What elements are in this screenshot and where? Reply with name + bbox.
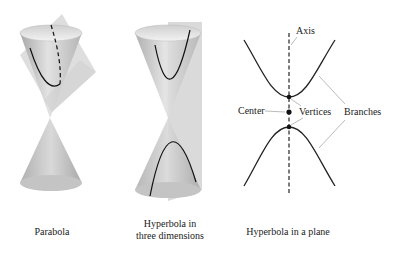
vertices-leader-upper <box>291 99 301 106</box>
caption-hyperbola-plane: Hyperbola in a plane <box>238 226 338 238</box>
center-label: Center <box>238 105 265 116</box>
caption-line: Hyperbola in a plane <box>246 226 330 237</box>
upper-vertex-point <box>287 95 292 100</box>
parabola-cone-diagram <box>20 14 96 191</box>
vertices-label: Vertices <box>299 106 331 117</box>
lower-cone-base <box>20 175 82 191</box>
branches-leader-upper <box>319 76 345 104</box>
upper-cone-rim <box>135 25 201 41</box>
lower-vertex-point <box>287 125 292 130</box>
branches-label: Branches <box>344 106 381 117</box>
hyperbola-plane-diagram: Axis Center Vertices Branches <box>238 25 381 193</box>
center-point <box>286 109 291 114</box>
vertices-leader-lower <box>291 118 303 125</box>
lower-cone <box>20 118 82 183</box>
caption-line: Hyperbola in <box>125 218 215 230</box>
caption-line: three dimensions <box>125 230 215 242</box>
center-leader <box>265 111 285 112</box>
caption-parabola: Parabola <box>15 226 89 238</box>
hyperbola-3d-diagram <box>135 22 202 201</box>
conic-sections-figure: Axis Center Vertices Branches <box>0 0 399 253</box>
caption-hyperbola-3d: Hyperbola in three dimensions <box>125 218 215 242</box>
caption-line: Parabola <box>35 226 70 237</box>
lower-cone-base <box>135 182 201 198</box>
axis-leader <box>291 37 297 45</box>
branches-leader-lower <box>319 120 345 148</box>
upper-cone-rim <box>20 25 82 41</box>
axis-label: Axis <box>296 25 315 36</box>
